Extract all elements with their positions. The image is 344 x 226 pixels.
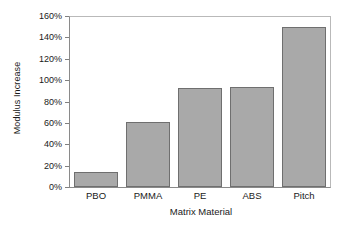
y-axis-tick-label: 0%	[24, 183, 62, 192]
y-axis-tick-label: 80%	[24, 97, 62, 106]
y-axis-title-text: Modulus Increase	[12, 62, 22, 135]
x-axis-tick-label-pe: PE	[174, 190, 226, 202]
bars-container	[70, 16, 330, 187]
bar-pe[interactable]	[178, 88, 222, 187]
x-axis-tick-label-pmma: PMMA	[122, 190, 174, 202]
y-axis-tick-label: 100%	[24, 76, 62, 85]
bar-chart: Modulus Increase 0%20%40%60%80%100%120%1…	[0, 0, 344, 226]
x-axis-tick-label-pitch: Pitch	[278, 190, 330, 202]
bar-pbo[interactable]	[74, 172, 118, 187]
y-axis-tick-label: 20%	[24, 161, 62, 170]
y-axis-tick-label: 40%	[24, 140, 62, 149]
y-axis-tick-label: 160%	[24, 12, 62, 21]
y-axis-tick-label: 60%	[24, 118, 62, 127]
y-axis-tick-label: 140%	[24, 33, 62, 42]
x-axis-title: Matrix Material	[70, 206, 332, 217]
bar-abs[interactable]	[230, 87, 274, 187]
bar-pmma[interactable]	[126, 122, 170, 187]
x-axis-tick-labels: PBOPMMAPEABSPitch	[70, 190, 330, 204]
bar-pitch[interactable]	[282, 27, 326, 187]
y-axis-tick-label: 120%	[24, 54, 62, 63]
x-axis-tick-label-pbo: PBO	[70, 190, 122, 202]
x-axis-tick-label-abs: ABS	[226, 190, 278, 202]
y-axis-tick-labels: 0%20%40%60%80%100%120%140%160%	[24, 16, 62, 188]
